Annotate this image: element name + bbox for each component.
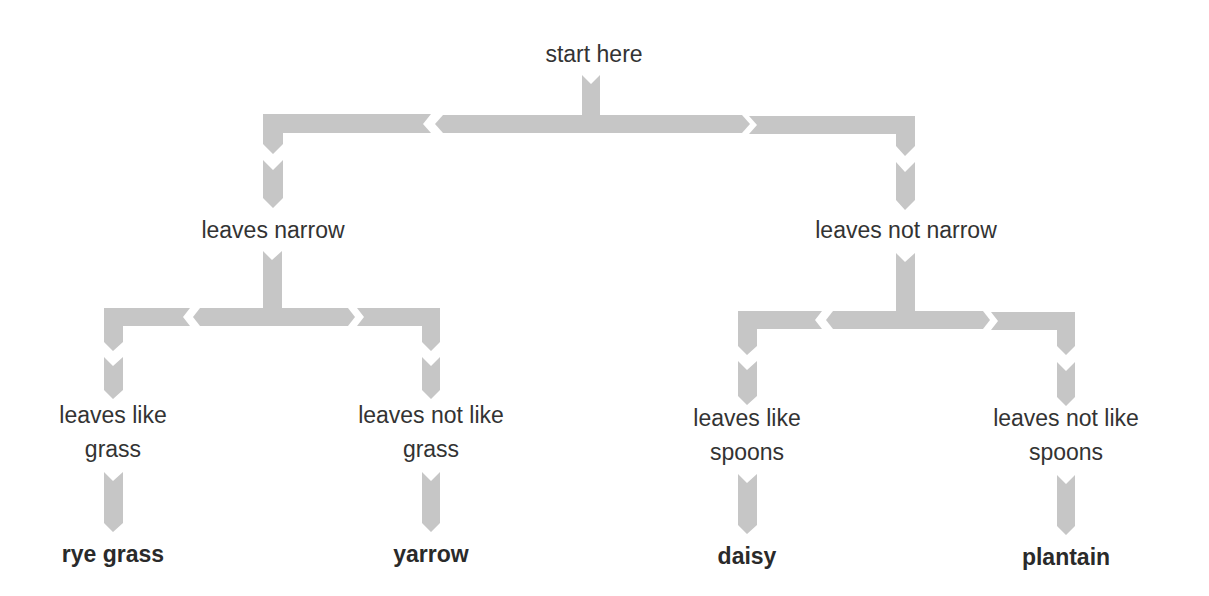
left-left-down-arrow (104, 357, 123, 399)
node-leaves-like-grass: leaves like grass (59, 398, 166, 466)
node-line-2: grass (358, 432, 504, 466)
left-right-result-arrow (422, 472, 440, 532)
node-leaves-not-like-grass: leaves not like grass (358, 398, 504, 466)
node-leaves-not-narrow: leaves not narrow (815, 213, 997, 247)
right-right-elbow-arrow (991, 312, 1075, 355)
node-leaves-not-like-spoons: leaves not like spoons (993, 401, 1139, 469)
left-center-bar-arrow (193, 308, 355, 326)
node-line-1: leaves not like (358, 398, 504, 432)
result-yarrow: yarrow (393, 537, 468, 571)
node-line-1: leaves like (693, 401, 800, 435)
node-line-2: spoons (993, 435, 1139, 469)
node-line-2: spoons (693, 435, 800, 469)
right-left-result-arrow (738, 474, 757, 534)
right-right-result-arrow (1057, 475, 1075, 535)
decision-tree-arrows (0, 0, 1209, 596)
result-daisy: daisy (718, 539, 777, 573)
node-line-2: grass (59, 432, 166, 466)
root-center-bar-arrow (435, 115, 750, 133)
right-left-down-arrow (738, 361, 757, 405)
result-rye-grass: rye grass (62, 537, 164, 571)
right-stem-arrow (896, 253, 915, 311)
left-right-elbow-arrow (357, 308, 440, 351)
node-leaves-narrow: leaves narrow (201, 213, 344, 247)
node-line-1: leaves not like (993, 401, 1139, 435)
root-left-elbow-arrow (263, 114, 431, 154)
right-left-elbow-arrow (738, 311, 822, 355)
root-right-elbow-arrow (749, 116, 915, 156)
node-leaves-like-spoons: leaves like spoons (693, 401, 800, 469)
left-left-result-arrow (104, 472, 123, 532)
node-start-here: start here (545, 37, 642, 71)
result-plantain: plantain (1022, 540, 1110, 574)
node-line-1: leaves like (59, 398, 166, 432)
left-right-down-arrow (422, 357, 440, 399)
left-stem-arrow (263, 251, 282, 308)
root-right-down-arrow (896, 162, 915, 210)
right-right-down-arrow (1057, 362, 1075, 406)
left-left-elbow-arrow (104, 308, 190, 351)
right-center-bar-arrow (826, 311, 990, 329)
root-left-down-arrow (263, 160, 283, 208)
root-stem-arrow (582, 75, 600, 115)
